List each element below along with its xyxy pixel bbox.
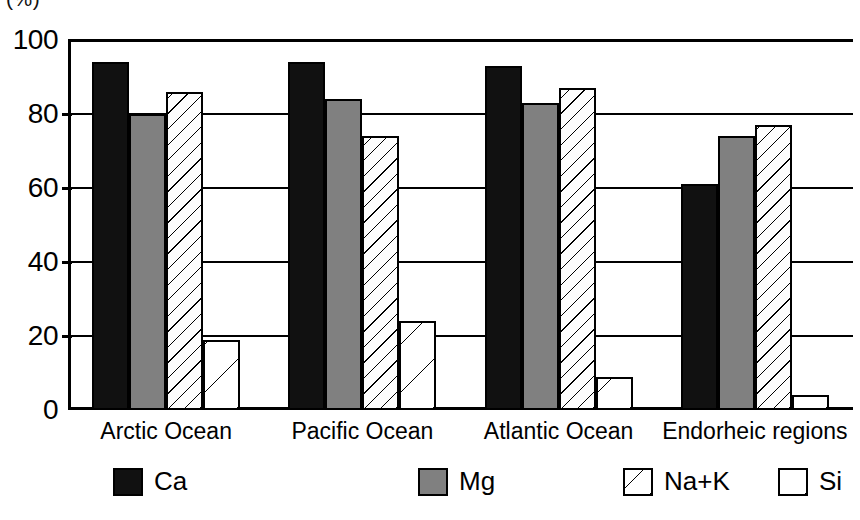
bar — [288, 62, 325, 410]
bar — [166, 92, 203, 410]
bar — [399, 321, 436, 410]
bar — [203, 340, 240, 410]
legend-item: Mg — [418, 466, 495, 497]
x-axis-category-label: Atlantic Ocean — [484, 418, 634, 445]
legend-label: Si — [819, 466, 842, 497]
chart-legend: CaMgNa+KSi — [68, 466, 858, 506]
x-axis-category-labels: Arctic OceanPacific OceanAtlantic OceanE… — [68, 418, 853, 452]
bar — [485, 66, 522, 410]
y-axis-tick-label: 0 — [43, 394, 58, 426]
bar — [129, 114, 166, 410]
legend-item: Na+K — [623, 466, 730, 497]
y-axis-tick-label: 100 — [13, 24, 58, 56]
y-axis-tick-label: 20 — [28, 320, 58, 352]
bar-chart: (%) 020406080100 Arctic OceanPacific Oce… — [0, 0, 860, 520]
bar — [522, 103, 559, 410]
y-axis-tick-label: 40 — [28, 246, 58, 278]
y-axis-tick-label: 80 — [28, 98, 58, 130]
bar — [596, 377, 633, 410]
legend-label: Ca — [154, 466, 187, 497]
legend-swatch-si — [778, 468, 808, 496]
legend-item: Ca — [113, 466, 187, 497]
x-axis-category-label: Endorheic regions — [662, 418, 847, 445]
legend-label: Mg — [459, 466, 495, 497]
legend-item: Si — [778, 466, 842, 497]
bar — [362, 136, 399, 410]
x-axis-category-label: Pacific Ocean — [291, 418, 433, 445]
y-axis-tick-labels: 020406080100 — [0, 40, 58, 410]
bar — [755, 125, 792, 410]
legend-swatch-na-k — [623, 468, 653, 496]
x-axis-category-label: Arctic Ocean — [100, 418, 232, 445]
legend-swatch-ca — [113, 468, 143, 496]
bar — [792, 395, 829, 410]
y-axis-tick-label: 60 — [28, 172, 58, 204]
bars-layer — [68, 40, 853, 410]
bar — [92, 62, 129, 410]
bar — [681, 184, 718, 410]
bar — [718, 136, 755, 410]
bar — [559, 88, 596, 410]
bar — [325, 99, 362, 410]
legend-swatch-mg — [418, 468, 448, 496]
legend-label: Na+K — [664, 466, 730, 497]
axis-unit-label: (%) — [6, 0, 40, 11]
